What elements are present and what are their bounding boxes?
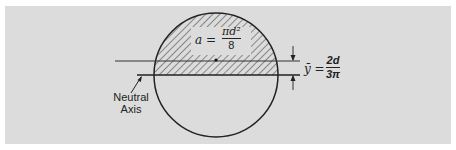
area-denominator: 8 [228,40,234,51]
arrow-down-icon [291,55,296,61]
centroid-lhs: ȳ = [304,62,325,76]
neutral-axis-label: Neutral Axis [108,91,154,115]
centroid-dot [214,58,217,61]
centroid-fraction: 2d 3π [326,55,340,80]
area-lhs: a = [195,33,216,47]
centroid-denominator: 3π [326,69,340,80]
neutral-axis-label-line2: Axis [108,103,154,115]
circle-section-diagram [0,0,456,150]
centroid-numerator: 2d [327,55,340,66]
area-fraction: πd² 8 [222,26,241,51]
arrow-up-icon [291,75,296,81]
area-numerator: πd² [222,26,241,37]
neutral-axis-label-line1: Neutral [108,91,154,103]
